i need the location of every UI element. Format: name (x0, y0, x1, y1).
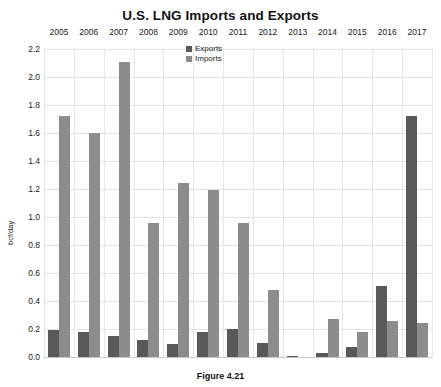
chart-title: U.S. LNG Imports and Exports (0, 8, 441, 23)
x-gridline (253, 49, 254, 357)
y-axis-tick-label: 1.6 (0, 128, 40, 138)
y-axis-tick-label: 0.4 (0, 296, 40, 306)
y-gridline (44, 77, 432, 78)
bar-imports-2009 (178, 183, 189, 357)
bar-exports-2009 (167, 344, 178, 357)
y-axis-tick-label: 0.6 (0, 268, 40, 278)
y-axis-tick-label: 1.2 (0, 184, 40, 194)
x-gridline (134, 49, 135, 357)
y-axis-label: bcf/day (6, 221, 15, 245)
bar-imports-2008 (148, 223, 159, 357)
bar-exports-2011 (227, 329, 238, 357)
bar-imports-2016 (387, 321, 398, 357)
x-gridline (432, 49, 433, 357)
legend-item-exports: Exports (186, 44, 222, 54)
x-axis-tick-label: 2012 (258, 27, 277, 37)
bar-exports-2005 (48, 330, 59, 357)
bar-exports-2012 (257, 343, 268, 357)
legend-swatch-exports (186, 46, 192, 52)
bar-imports-2015 (357, 332, 368, 357)
plot-area: 0.00.20.40.60.81.01.21.41.61.82.02.2bcf/… (44, 49, 432, 357)
bar-imports-2017 (417, 323, 428, 357)
x-axis-tick-label: 2007 (109, 27, 128, 37)
x-axis-tick-label: 2015 (348, 27, 367, 37)
y-gridline (44, 161, 432, 162)
bar-exports-2013 (287, 356, 298, 357)
bar-imports-2012 (268, 290, 279, 357)
bar-exports-2014 (316, 353, 327, 357)
legend-label-exports: Exports (195, 44, 222, 54)
figure-container: U.S. LNG Imports and Exports 0.00.20.40.… (0, 0, 441, 387)
x-axis-tick-label: 2011 (229, 27, 247, 37)
legend-item-imports: Imports (186, 54, 222, 64)
bar-imports-2007 (119, 62, 130, 357)
bar-exports-2017 (406, 116, 417, 357)
bar-exports-2010 (197, 332, 208, 357)
bar-imports-2010 (208, 190, 219, 357)
bar-imports-2006 (89, 133, 100, 357)
x-axis-tick-label: 2010 (199, 27, 218, 37)
y-gridline (44, 49, 432, 50)
x-axis-tick-label: 2014 (318, 27, 337, 37)
bar-imports-2011 (238, 223, 249, 357)
x-gridline (74, 49, 75, 357)
y-gridline (44, 189, 432, 190)
x-gridline (402, 49, 403, 357)
bar-exports-2007 (108, 336, 119, 357)
x-axis-tick-label: 2017 (408, 27, 427, 37)
bar-exports-2008 (137, 340, 148, 357)
y-gridline (44, 133, 432, 134)
chart-legend: Exports Imports (186, 44, 222, 64)
x-gridline (193, 49, 194, 357)
bar-exports-2015 (346, 347, 357, 357)
x-gridline (372, 49, 373, 357)
x-gridline (342, 49, 343, 357)
x-axis-tick-label: 2013 (288, 27, 307, 37)
bar-imports-2005 (59, 116, 70, 357)
legend-label-imports: Imports (195, 54, 222, 64)
x-gridline (313, 49, 314, 357)
x-axis-tick-label: 2009 (169, 27, 188, 37)
x-gridline (223, 49, 224, 357)
x-axis-tick-label: 2008 (139, 27, 158, 37)
y-gridline (44, 105, 432, 106)
y-axis-tick-label: 1.4 (0, 156, 40, 166)
figure-caption: Figure 4.21 (0, 371, 441, 381)
x-axis-tick-label: 2016 (378, 27, 397, 37)
y-axis-tick-label: 2.2 (0, 44, 40, 54)
x-gridline (163, 49, 164, 357)
legend-swatch-imports (186, 56, 192, 62)
x-gridline (104, 49, 105, 357)
x-gridline (283, 49, 284, 357)
x-axis-tick-label: 2005 (49, 27, 68, 37)
bar-exports-2006 (78, 332, 89, 357)
y-gridline (44, 357, 432, 358)
x-gridline (44, 49, 45, 357)
y-axis-tick-label: 1.8 (0, 100, 40, 110)
y-gridline (44, 217, 432, 218)
x-axis-tick-label: 2006 (79, 27, 98, 37)
y-axis-tick-label: 0.0 (0, 352, 40, 362)
y-axis-tick-label: 2.0 (0, 72, 40, 82)
bar-imports-2014 (328, 319, 339, 357)
y-axis-tick-label: 0.2 (0, 324, 40, 334)
bar-exports-2016 (376, 286, 387, 357)
